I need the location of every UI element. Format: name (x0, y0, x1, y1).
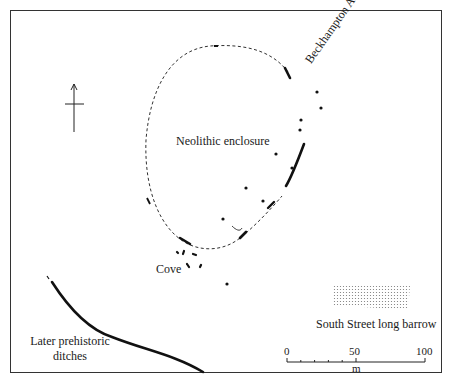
north-arrow-icon (65, 84, 84, 132)
avenue-line (286, 144, 304, 186)
ditch-segment (268, 202, 274, 208)
label-ditches-line2: ditches (22, 349, 118, 364)
label-cove: Cove (156, 262, 181, 277)
ditch-segment (240, 232, 246, 238)
label-ditches-line1: Later prehistoric (22, 334, 118, 349)
later-ditch-fragment (47, 276, 49, 279)
label-later-prehistoric-ditches: Later prehistoric ditches (22, 334, 118, 364)
standing-stones (221, 90, 322, 285)
scale-unit: m (352, 362, 361, 374)
label-south-street-long-barrow: South Street long barrow (316, 317, 436, 332)
ditch-segment (285, 68, 290, 78)
hook-marker (232, 226, 242, 230)
ditch-segment (147, 198, 150, 204)
scale-label-50: 50 (349, 345, 360, 357)
scale-label-100: 100 (416, 345, 433, 357)
ditch-segment (180, 238, 190, 244)
long-barrow-shape (333, 284, 410, 310)
scale-label-0: 0 (284, 345, 290, 357)
label-neolithic-enclosure: Neolithic enclosure (176, 134, 270, 149)
